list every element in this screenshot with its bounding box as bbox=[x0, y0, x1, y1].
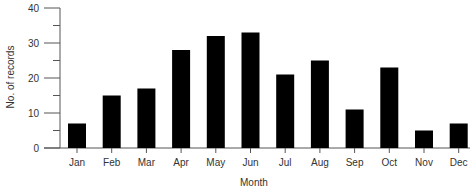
bar-apr bbox=[172, 50, 190, 148]
y-tick-label: 10 bbox=[28, 108, 40, 119]
x-tick-label: Sep bbox=[346, 157, 364, 168]
x-tick-label: Nov bbox=[415, 157, 433, 168]
y-tick-label: 40 bbox=[28, 3, 40, 14]
bar-sep bbox=[346, 110, 364, 149]
x-tick-label: Jun bbox=[242, 157, 258, 168]
x-tick-label: Feb bbox=[103, 157, 121, 168]
x-tick-label: Apr bbox=[173, 157, 189, 168]
y-axis-label: No. of records bbox=[5, 27, 19, 127]
bar-jun bbox=[242, 33, 260, 149]
x-axis-label: Month bbox=[240, 177, 268, 188]
bar-feb bbox=[103, 96, 121, 149]
bar-aug bbox=[311, 61, 329, 149]
bar-oct bbox=[380, 68, 398, 149]
x-tick-label: Dec bbox=[450, 157, 468, 168]
y-axis: 010203040 bbox=[28, 3, 60, 154]
bar-may bbox=[207, 36, 225, 148]
y-tick-label: 30 bbox=[28, 38, 40, 49]
x-tick-label: Jan bbox=[69, 157, 85, 168]
x-axis: JanFebMarAprMayJunJulAugSepOctNovDec bbox=[44, 148, 470, 168]
y-tick-label: 20 bbox=[28, 73, 40, 84]
bar-mar bbox=[137, 89, 155, 149]
x-tick-label: Jul bbox=[279, 157, 292, 168]
y-tick-label: 0 bbox=[33, 143, 39, 154]
x-tick-label: May bbox=[206, 157, 225, 168]
bar-dec bbox=[450, 124, 468, 149]
x-tick-label: Oct bbox=[382, 157, 398, 168]
bar-jan bbox=[68, 124, 86, 149]
bar-jul bbox=[276, 75, 294, 149]
x-tick-label: Aug bbox=[311, 157, 329, 168]
chart-canvas: 010203040 JanFebMarAprMayJunJulAugSepOct… bbox=[0, 0, 476, 189]
bars bbox=[68, 33, 468, 149]
x-tick-label: Mar bbox=[138, 157, 156, 168]
bar-nov bbox=[415, 131, 433, 149]
